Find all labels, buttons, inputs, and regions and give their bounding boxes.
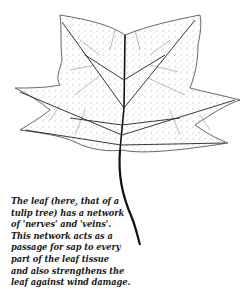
caption-line: tulip tree) has a network xyxy=(11,208,171,220)
caption-line: and also strengthens the xyxy=(11,266,171,278)
leaf-caption: The leaf (here, that of a tulip tree) ha… xyxy=(11,196,171,289)
caption-line: This network acts as a xyxy=(11,231,171,243)
caption-line: The leaf (here, that of a xyxy=(11,196,171,208)
caption-line: passage for sap to every xyxy=(11,242,171,254)
caption-line: part of the leaf tissue xyxy=(11,254,171,266)
leaf-outline xyxy=(15,15,240,152)
caption-line: of 'nerves' and 'veins'. xyxy=(11,219,171,231)
caption-line: leaf against wind damage. xyxy=(11,277,171,289)
